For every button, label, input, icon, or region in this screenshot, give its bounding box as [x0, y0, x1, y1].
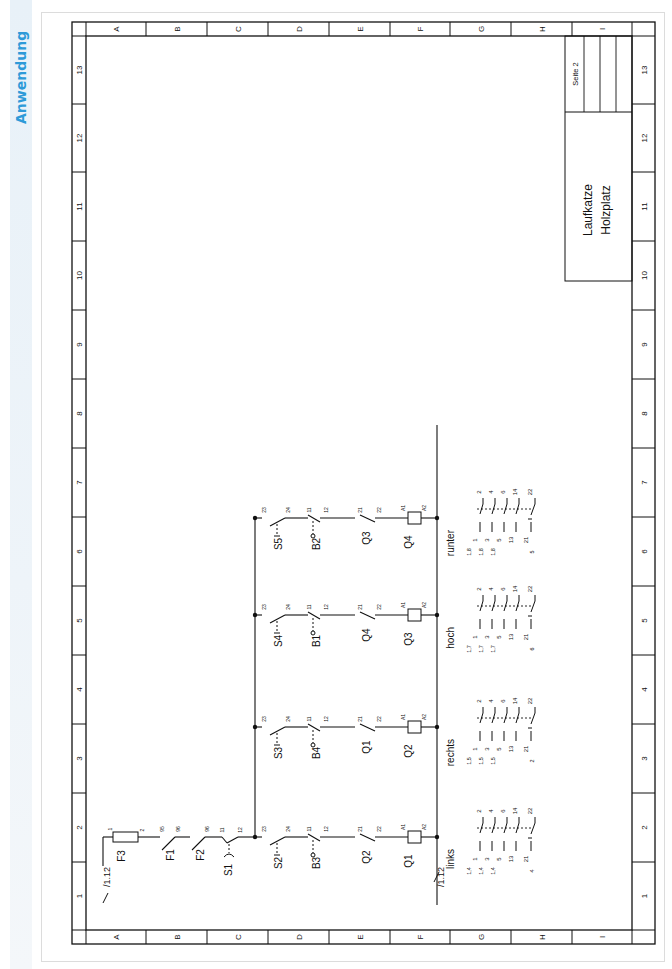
- column-label-right: 1: [640, 893, 649, 898]
- cross-ref: 4: [529, 869, 535, 872]
- svg-text:22: 22: [527, 585, 533, 592]
- column-label-right: 6: [640, 549, 649, 554]
- branch-direction-label: runter: [445, 529, 456, 556]
- svg-text:21: 21: [523, 855, 529, 862]
- pushbutton-label: S4: [273, 634, 284, 647]
- limit-switch-label: B2: [311, 537, 322, 550]
- svg-text:2: 2: [476, 699, 482, 703]
- row-label-bottom: A: [112, 934, 121, 940]
- row-label-bottom: G: [477, 934, 486, 940]
- svg-text:A2: A2: [421, 824, 427, 830]
- limit-switch-label: B3: [311, 856, 322, 869]
- svg-text:23: 23: [261, 604, 267, 610]
- column-label-right: 10: [640, 271, 649, 280]
- column-label-left: 10: [75, 271, 84, 280]
- svg-text:3: 3: [484, 857, 490, 861]
- svg-text:13: 13: [508, 633, 514, 640]
- contact-mirror: 123456131421221,81,81,85: [466, 488, 535, 556]
- svg-text:11: 11: [306, 716, 312, 721]
- row-label-top: D: [295, 26, 304, 32]
- drawing-frame: AABBCCDDEEFFGGHHII1122334455667788991010…: [72, 22, 655, 944]
- svg-text:14: 14: [512, 488, 518, 495]
- svg-text:12: 12: [323, 716, 329, 722]
- svg-text:1: 1: [472, 635, 478, 639]
- svg-text:14: 14: [512, 697, 518, 704]
- coil-label: Q3: [403, 632, 414, 646]
- svg-text:A2: A2: [421, 505, 427, 511]
- svg-text:4: 4: [488, 490, 494, 494]
- column-label-right: 8: [640, 411, 649, 416]
- column-label-left: 5: [75, 618, 84, 623]
- column-label-right: 13: [640, 65, 649, 74]
- svg-text:13: 13: [508, 855, 514, 862]
- column-label-left: 13: [75, 65, 84, 74]
- column-label-left: 11: [75, 202, 84, 211]
- pushbutton-label: S5: [273, 537, 284, 550]
- contact-mirror: 123456131421221,41,41,44: [466, 807, 535, 875]
- supply-circuit: /1.12F312F19596F296S11112/1.12: [102, 425, 446, 905]
- svg-text:2: 2: [476, 809, 482, 813]
- svg-text:4: 4: [488, 587, 494, 591]
- interlock-label: Q2: [361, 850, 372, 864]
- svg-text:3: 3: [484, 538, 490, 542]
- row-label-bottom: H: [538, 934, 547, 940]
- cross-ref: 1,5: [478, 757, 484, 765]
- row-label-bottom: E: [356, 934, 365, 939]
- cross-ref-in: /1.12: [102, 867, 112, 887]
- column-label-left: 7: [75, 480, 84, 485]
- svg-text:6: 6: [500, 699, 506, 703]
- svg-text:24: 24: [285, 716, 291, 722]
- row-label-top: H: [538, 26, 547, 32]
- svg-text:21: 21: [357, 604, 363, 610]
- svg-text:12: 12: [323, 826, 329, 832]
- svg-text:22: 22: [376, 716, 382, 722]
- coil-label: Q4: [403, 535, 414, 549]
- svg-text:21: 21: [523, 633, 529, 640]
- row-label-top: C: [234, 26, 243, 32]
- svg-text:13: 13: [508, 536, 514, 543]
- cross-ref: 1,8: [466, 548, 472, 556]
- svg-text:96: 96: [204, 826, 210, 832]
- svg-text:5: 5: [496, 635, 502, 639]
- pushbutton-label: S3: [273, 746, 284, 759]
- svg-text:12: 12: [323, 604, 329, 610]
- title-line-1: Laufkatze: [581, 184, 595, 236]
- row-label-bottom: I: [598, 936, 607, 938]
- row-label-top: F: [416, 26, 425, 31]
- svg-text:22: 22: [527, 488, 533, 495]
- svg-text:1: 1: [107, 827, 113, 830]
- svg-text:A1: A1: [400, 824, 406, 830]
- column-label-right: 5: [640, 618, 649, 623]
- svg-text:21: 21: [523, 745, 529, 752]
- svg-text:24: 24: [285, 507, 291, 513]
- cross-ref: 1,7: [478, 645, 484, 653]
- cross-ref: 1,7: [490, 645, 496, 653]
- svg-text:2: 2: [476, 587, 482, 591]
- branch-direction-label: hoch: [445, 627, 456, 649]
- fuse-symbol: [113, 832, 138, 842]
- cross-ref: 1,4: [478, 867, 484, 875]
- cross-ref: 1,4: [466, 867, 472, 875]
- interlock-label: Q3: [361, 531, 372, 545]
- svg-text:22: 22: [376, 826, 382, 832]
- row-label-bottom: B: [173, 934, 182, 939]
- branch-rechts: S32324B41112Q12122Q2A1A2rechts1234561314…: [253, 697, 535, 766]
- svg-text:22: 22: [376, 604, 382, 610]
- svg-text:13: 13: [508, 745, 514, 752]
- svg-text:3: 3: [484, 635, 490, 639]
- row-label-top: I: [598, 28, 607, 30]
- column-label-left: 6: [75, 549, 84, 554]
- schematic-drawing: AABBCCDDEEFFGGHHII1122334455667788991010…: [0, 0, 672, 969]
- svg-text:4: 4: [488, 699, 494, 703]
- svg-text:A2: A2: [421, 714, 427, 720]
- branch-direction-label: links: [445, 849, 456, 869]
- svg-text:5: 5: [496, 538, 502, 542]
- svg-text:21: 21: [357, 826, 363, 832]
- title-block: Seite 2LaufkatzeHolzplatz: [565, 36, 632, 281]
- row-label-bottom: C: [234, 934, 243, 940]
- svg-text:23: 23: [261, 507, 267, 513]
- limit-switch-label: B4: [311, 746, 322, 759]
- cross-ref: 2: [529, 759, 535, 762]
- svg-text:12: 12: [323, 507, 329, 513]
- row-label-bottom: F: [416, 934, 425, 939]
